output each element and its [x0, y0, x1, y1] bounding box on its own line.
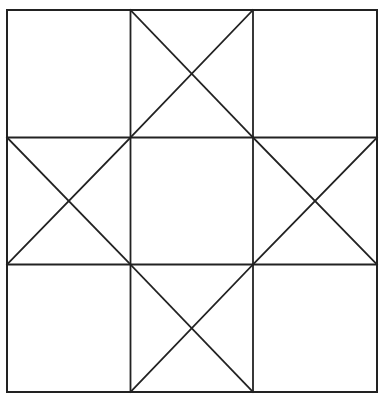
quilt-block-diagram [0, 0, 382, 401]
outer-frame [7, 10, 377, 392]
outer-square [7, 10, 377, 392]
